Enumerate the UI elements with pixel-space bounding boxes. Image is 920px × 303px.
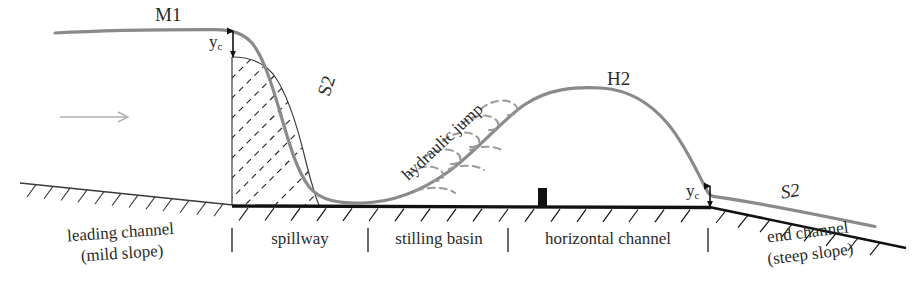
yc-end-subscript: c [695,189,700,201]
yc-crest-subscript: c [218,40,223,52]
profile-label-s2-end: S2 [779,179,801,204]
horizontal-channel-bed [232,206,711,222]
spillway-body-hatching [200,10,395,265]
reach-label-stilling-basin: stilling basin [378,229,500,249]
profile-label-m1: M1 [155,4,181,26]
baffle-block-sill [538,188,547,207]
yc-end-symbol: y [686,181,695,200]
yc-crest-symbol: y [209,32,218,51]
diagram-canvas: M1 S2 hydraulic jump H2 S2 yc yc leading… [0,0,920,303]
spillway-body [200,10,395,265]
yc-crest-label: yc [209,32,222,52]
reach-label-spillway: spillway [240,229,360,249]
leading-channel-bed [20,183,233,216]
profile-label-h2: H2 [607,68,630,90]
yc-end-label: yc [686,181,699,201]
reach-label-horizontal-channel: horizontal channel [511,229,705,249]
